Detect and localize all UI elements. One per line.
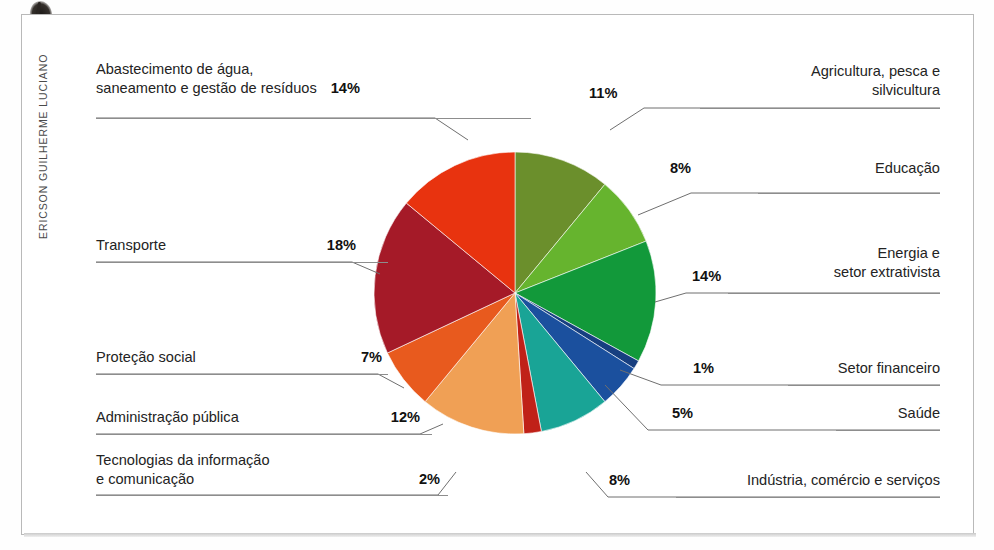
label-saude-pct-wrap: 5%	[672, 404, 693, 423]
label-energia-text: Energia e setor extrativista	[834, 245, 940, 280]
label-underline	[96, 434, 432, 435]
label-administracao-publica: Administração pública 12%	[96, 408, 420, 427]
label-agricultura-pct-wrap: 11%	[589, 84, 617, 103]
label-administracao-publica-pct: 12%	[391, 408, 420, 427]
label-underline	[788, 385, 940, 386]
label-underline	[728, 293, 940, 294]
label-setor-financeiro-text: Setor financeiro	[838, 360, 940, 376]
label-underline	[836, 430, 940, 431]
label-setor-financeiro: Setor financeiro	[790, 359, 940, 378]
label-tecnologias-pct: 2%	[419, 470, 440, 489]
label-protecao-social-text: Proteção social	[96, 348, 196, 367]
label-underline	[96, 374, 388, 375]
label-transporte: Transporte 18%	[96, 236, 356, 255]
label-transporte-text: Transporte	[96, 236, 166, 255]
pie-slices	[374, 152, 656, 434]
label-educacao-pct: 8%	[670, 160, 691, 176]
label-protecao-social-pct: 7%	[361, 348, 382, 367]
label-industria-pct: 8%	[609, 472, 630, 488]
label-protecao-social: Proteção social 7%	[96, 348, 382, 367]
label-abastecimento: Abastecimento de água, saneamento e gest…	[96, 60, 446, 97]
label-energia-pct: 14%	[692, 268, 721, 284]
label-energia-pct-wrap: 14%	[692, 267, 721, 286]
label-abastecimento-text: Abastecimento de água, saneamento e gest…	[96, 60, 317, 97]
label-agricultura-pct: 11%	[589, 85, 617, 101]
label-industria: Indústria, comércio e serviços	[680, 471, 940, 490]
label-administracao-publica-text: Administração pública	[96, 408, 239, 427]
label-agricultura: Agricultura, pesca e silvicultura	[700, 62, 940, 99]
label-underline	[676, 497, 940, 498]
label-saude-text: Saúde	[898, 405, 940, 421]
label-educacao-text: Educação	[875, 160, 940, 176]
label-saude: Saúde	[840, 404, 940, 423]
label-underline	[96, 262, 388, 263]
label-industria-text: Indústria, comércio e serviços	[747, 472, 940, 488]
label-setor-financeiro-pct: 1%	[693, 360, 714, 376]
label-abastecimento-pct: 14%	[331, 79, 360, 98]
label-tecnologias-text: Tecnologias da informação e comunicação	[96, 451, 270, 488]
label-tecnologias: Tecnologias da informação e comunicação …	[96, 451, 440, 488]
label-educacao-pct-wrap: 8%	[670, 159, 691, 178]
label-industria-pct-wrap: 8%	[609, 471, 630, 490]
label-energia: Energia e setor extrativista	[730, 244, 940, 281]
label-educacao: Educação	[760, 159, 940, 178]
label-agricultura-text: Agricultura, pesca e silvicultura	[811, 63, 940, 98]
label-setor-financeiro-pct-wrap: 1%	[693, 359, 714, 378]
label-saude-pct: 5%	[672, 405, 693, 421]
label-underline	[96, 495, 448, 496]
label-underline	[700, 108, 940, 109]
scanned-page: ERICSON GUILHERME LUCIANO	[0, 0, 994, 550]
label-transporte-pct: 18%	[327, 236, 356, 255]
label-underline	[96, 118, 531, 119]
label-underline	[758, 193, 940, 194]
